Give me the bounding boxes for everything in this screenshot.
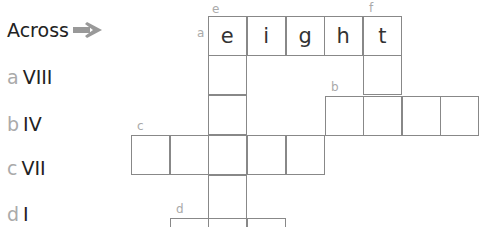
arrow-right-icon — [73, 21, 103, 39]
cell-b3[interactable] — [402, 96, 441, 136]
grid-label-f: f — [369, 1, 373, 15]
cell-e5[interactable] — [208, 175, 247, 219]
clue-c: cVII — [7, 157, 46, 179]
cell-b2[interactable] — [363, 96, 402, 136]
cell-a1[interactable]: e — [208, 16, 247, 56]
cell-letter: g — [287, 17, 324, 55]
cell-b1[interactable] — [325, 96, 364, 136]
across-heading: Across — [7, 19, 103, 41]
cell-e3[interactable] — [208, 95, 247, 135]
grid-label-c: c — [137, 119, 144, 133]
clue-letter: a — [7, 66, 19, 88]
cell-a3[interactable]: g — [286, 16, 325, 56]
cell-c4[interactable] — [247, 135, 286, 175]
cell-c5[interactable] — [286, 135, 325, 175]
clue-text: I — [23, 203, 29, 225]
cell-letter: h — [325, 17, 362, 55]
cell-e2[interactable] — [208, 55, 247, 95]
cell-a5[interactable]: t — [363, 16, 402, 56]
grid-label-d: d — [176, 202, 184, 216]
clue-text: VII — [21, 157, 45, 179]
cell-letter: t — [364, 17, 401, 55]
cell-b4[interactable] — [440, 96, 479, 136]
across-label: Across — [7, 19, 69, 41]
cell-f2[interactable] — [363, 55, 402, 95]
grid-label-e: e — [212, 2, 219, 16]
clue-a: aVIII — [7, 66, 52, 88]
cell-a4[interactable]: h — [324, 16, 363, 56]
cell-c2[interactable] — [170, 135, 209, 175]
clue-d: dI — [7, 203, 29, 225]
clue-b: bIV — [7, 113, 42, 135]
cell-c1[interactable] — [131, 135, 170, 175]
grid-label-a: a — [197, 26, 204, 40]
clue-text: VIII — [23, 66, 53, 88]
clue-letter: d — [7, 203, 19, 225]
cell-d2[interactable] — [208, 218, 247, 227]
cell-a2[interactable]: i — [247, 16, 286, 56]
cell-d1[interactable] — [170, 218, 209, 227]
clue-letter: b — [7, 113, 19, 135]
cell-letter: i — [248, 17, 285, 55]
clue-letter: c — [7, 157, 17, 179]
cell-c3[interactable] — [208, 135, 247, 175]
cell-letter: e — [209, 17, 246, 55]
clue-text: IV — [23, 113, 42, 135]
cell-d3[interactable] — [247, 218, 286, 227]
grid-label-b: b — [331, 80, 339, 94]
